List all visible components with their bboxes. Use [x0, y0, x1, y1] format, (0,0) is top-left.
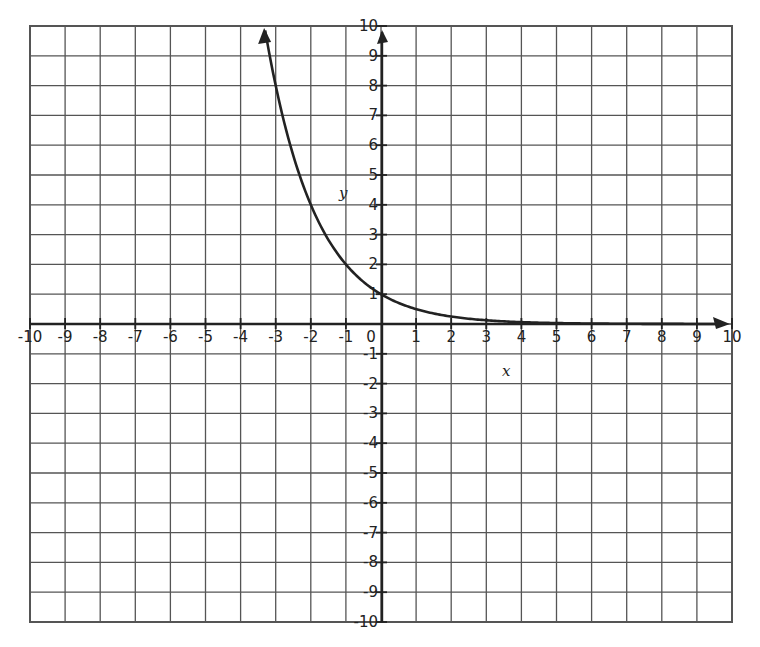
y-tick-label: -1	[363, 345, 378, 363]
x-tick-label: 7	[622, 328, 632, 346]
y-tick-label: 8	[368, 77, 378, 95]
graph-plot: -10-9-8-7-6-5-4-3-2-1012345678910 -10-9-…	[0, 0, 760, 647]
x-tick-label: 0	[366, 328, 376, 346]
x-tick-label: 4	[517, 328, 527, 346]
y-tick-label: 9	[368, 47, 378, 65]
curve-arrow-up-icon	[258, 28, 271, 44]
x-tick-labels: -10-9-8-7-6-5-4-3-2-1012345678910	[18, 328, 742, 346]
x-tick-label: -5	[198, 328, 213, 346]
x-tick-label: 2	[446, 328, 456, 346]
x-tick-label: -3	[268, 328, 283, 346]
y-tick-label: 3	[368, 226, 378, 244]
x-tick-label: -7	[128, 328, 143, 346]
y-tick-label: 7	[368, 106, 378, 124]
x-tick-label: -9	[58, 328, 73, 346]
y-axis-arrow-icon	[377, 30, 388, 44]
x-tick-label: -2	[303, 328, 318, 346]
x-tick-label: 10	[722, 328, 741, 346]
y-tick-label: -10	[354, 613, 379, 631]
y-tick-label: -3	[363, 404, 378, 422]
y-tick-label: -6	[363, 494, 378, 512]
x-axis-label: x	[502, 362, 511, 380]
y-tick-label: 2	[368, 255, 378, 273]
x-tick-label: 9	[692, 328, 702, 346]
x-tick-label: 1	[411, 328, 421, 346]
y-tick-label: 4	[368, 196, 378, 214]
y-tick-label: -9	[363, 583, 378, 601]
y-tick-label: 5	[368, 166, 378, 184]
y-axis-label: y	[338, 184, 348, 202]
y-tick-label: -4	[363, 434, 378, 452]
y-tick-label: 10	[359, 17, 378, 35]
x-tick-label: -4	[233, 328, 248, 346]
y-tick-label: -8	[363, 553, 378, 571]
x-tick-label: 6	[587, 328, 597, 346]
x-tick-label: 8	[657, 328, 667, 346]
x-tick-label: 5	[552, 328, 562, 346]
y-tick-label: -5	[363, 464, 378, 482]
x-tick-label: -8	[93, 328, 108, 346]
y-tick-label: -2	[363, 375, 378, 393]
y-tick-label: 6	[368, 136, 378, 154]
exponential-decay-curve	[265, 31, 725, 324]
x-tick-label: -6	[163, 328, 178, 346]
y-tick-label: -7	[363, 524, 378, 542]
x-tick-label: -10	[18, 328, 43, 346]
x-tick-label: -1	[338, 328, 353, 346]
x-tick-label: 3	[482, 328, 492, 346]
